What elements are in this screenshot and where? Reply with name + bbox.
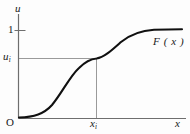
u-sub-i-base: u <box>3 50 9 62</box>
curve-label: F ( x ) <box>153 36 184 47</box>
x-axis-label: x <box>175 118 180 129</box>
y-tick-label-one: 1 <box>8 24 14 35</box>
u-sub-i-label: ui <box>3 51 11 64</box>
cdf-figure: u 1 ui O xi x F ( x ) <box>0 0 190 134</box>
x-sub-i-subscript: i <box>95 123 97 131</box>
x-sub-i-label: xi <box>90 118 97 131</box>
y-axis-label: u <box>15 3 21 14</box>
origin-label: O <box>6 117 14 128</box>
u-sub-i-subscript: i <box>9 56 11 64</box>
plot-canvas <box>0 0 190 134</box>
